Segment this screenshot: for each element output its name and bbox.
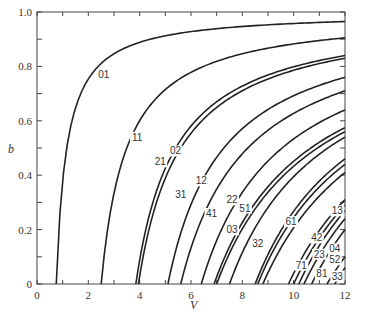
curve-label-71: 71 [296, 260, 308, 271]
x-tick-label: 2 [86, 289, 92, 301]
curve-label-41: 41 [206, 208, 218, 219]
curve-label-52: 52 [329, 254, 341, 265]
y-tick-label: 0.2 [18, 224, 32, 236]
x-tick-label: 8 [240, 289, 246, 301]
curve-03 [217, 132, 345, 284]
curve-label-21: 21 [155, 156, 167, 167]
curve-label-02: 02 [170, 145, 182, 156]
curve-label-81: 81 [316, 268, 328, 279]
chart: 02468101200.20.40.60.81.0 01112102311241… [0, 0, 366, 323]
curve-label-04: 04 [329, 243, 341, 254]
curve-label-03: 03 [227, 224, 239, 235]
y-tick-label: 0.8 [18, 60, 32, 72]
curve-label-33: 33 [332, 271, 344, 282]
x-tick-label: 12 [340, 289, 351, 301]
curve-label-32: 32 [252, 238, 264, 249]
axes: 02468101200.20.40.60.81.0 [18, 6, 350, 301]
x-tick-label: 4 [137, 289, 143, 301]
curve-label-31: 31 [175, 189, 187, 200]
y-axis-title: b [8, 142, 14, 156]
plot-frame [37, 12, 345, 284]
curve-label-13: 13 [332, 205, 344, 216]
curve-label-23: 23 [314, 249, 326, 260]
curve-label-61: 61 [286, 216, 298, 227]
y-tick-label: 1.0 [18, 6, 32, 18]
x-tick-label: 0 [34, 289, 40, 301]
curve-label-12: 12 [196, 175, 208, 186]
y-tick-label: 0.4 [18, 169, 32, 181]
curve-label-51: 51 [239, 203, 251, 214]
curve-label-11: 11 [132, 132, 143, 143]
curves [56, 22, 345, 284]
curve-label-42: 42 [311, 232, 323, 243]
curve-label-22: 22 [227, 194, 239, 205]
y-tick-label: 0 [27, 278, 33, 290]
x-axis-title: V [190, 298, 199, 312]
x-tick-label: 10 [288, 289, 300, 301]
curve-01 [56, 22, 345, 284]
curve-label-01: 01 [98, 69, 110, 80]
y-tick-label: 0.6 [18, 115, 32, 127]
